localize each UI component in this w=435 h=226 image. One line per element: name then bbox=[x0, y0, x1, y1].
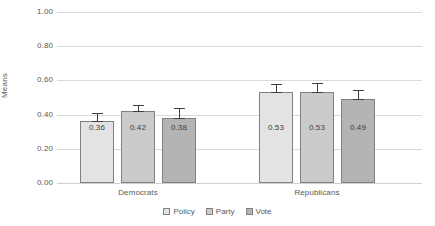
error-bar bbox=[276, 84, 277, 93]
y-axis-tick-label: 1.00 bbox=[7, 7, 53, 16]
y-axis-tick-labels: 1.000.800.600.400.200.00 bbox=[0, 12, 53, 183]
legend-swatch-icon bbox=[206, 208, 213, 215]
bar: 0.53 bbox=[259, 92, 293, 183]
error-bar-cap-top bbox=[312, 83, 323, 84]
bar-value-label: 0.36 bbox=[81, 123, 113, 132]
error-bar-cap-bottom bbox=[353, 99, 364, 100]
gridline bbox=[57, 46, 422, 47]
error-bar-cap-bottom bbox=[92, 121, 103, 122]
bar: 0.36 bbox=[80, 121, 114, 183]
error-bar-cap-bottom bbox=[174, 118, 185, 119]
y-axis-tick-label: 0.60 bbox=[7, 75, 53, 84]
chart-legend: PolicyPartyVote bbox=[0, 207, 435, 216]
error-bar-cap-bottom bbox=[271, 92, 282, 93]
error-bar-cap-top bbox=[353, 90, 364, 91]
legend-label: Party bbox=[216, 207, 235, 216]
x-axis-category-label: Republicans bbox=[259, 188, 375, 197]
bar-value-label: 0.38 bbox=[163, 123, 195, 132]
bar-value-label: 0.53 bbox=[260, 123, 292, 132]
error-bar-cap-top bbox=[133, 105, 144, 106]
bar-value-label: 0.42 bbox=[122, 123, 154, 132]
bar-value-label: 0.53 bbox=[301, 123, 333, 132]
legend-swatch-icon bbox=[163, 208, 170, 215]
error-bar-cap-bottom bbox=[312, 92, 323, 93]
plot-area: 0.360.420.380.530.530.49 bbox=[57, 12, 422, 183]
error-bar-cap-top bbox=[92, 113, 103, 114]
legend-label: Policy bbox=[173, 207, 194, 216]
bar: 0.49 bbox=[341, 99, 375, 183]
error-bar-cap-bottom bbox=[133, 111, 144, 112]
error-bar bbox=[358, 90, 359, 99]
y-axis-tick-label: 0.40 bbox=[7, 110, 53, 119]
error-bar-cap-top bbox=[174, 108, 185, 109]
legend-item: Party bbox=[206, 207, 235, 216]
y-axis-tick-label: 0.80 bbox=[7, 41, 53, 50]
legend-swatch-icon bbox=[246, 208, 253, 215]
error-bar-cap-top bbox=[271, 84, 282, 85]
gridline bbox=[57, 183, 422, 184]
error-bar bbox=[179, 108, 180, 118]
legend-label: Vote bbox=[256, 207, 272, 216]
gridline bbox=[57, 80, 422, 81]
legend-item: Policy bbox=[163, 207, 194, 216]
error-bar bbox=[97, 113, 98, 122]
y-axis-tick-label: 0.00 bbox=[7, 178, 53, 187]
error-bar bbox=[317, 83, 318, 93]
bar: 0.53 bbox=[300, 92, 334, 183]
x-axis-category-label: Democrats bbox=[80, 188, 196, 197]
bar-value-label: 0.49 bbox=[342, 123, 374, 132]
bar: 0.42 bbox=[121, 111, 155, 183]
bar-chart: Means 1.000.800.600.400.200.00 0.360.420… bbox=[0, 0, 435, 226]
gridline bbox=[57, 12, 422, 13]
y-axis-tick-label: 0.20 bbox=[7, 144, 53, 153]
bar: 0.38 bbox=[162, 118, 196, 183]
legend-item: Vote bbox=[246, 207, 272, 216]
